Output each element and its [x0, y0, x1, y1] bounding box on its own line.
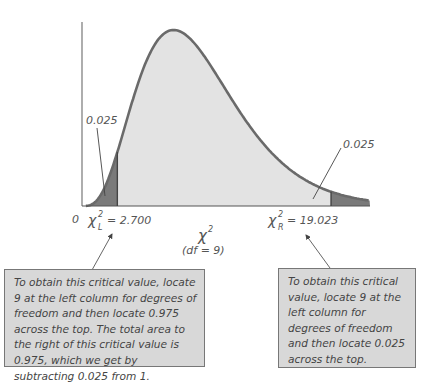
left-critical-sup: 2 — [98, 210, 103, 219]
left-tail-area — [86, 152, 117, 206]
x-axis-sup: 2 — [208, 225, 213, 234]
left-callout-text: To obtain this critical value, locate 9 … — [14, 276, 196, 382]
left-area-label: 0.025 — [86, 114, 118, 127]
origin-label: 0 — [72, 213, 79, 226]
left-callout-box: To obtain this critical value, locate 9 … — [4, 269, 205, 367]
right-area-label: 0.025 — [343, 138, 375, 151]
right-callout-text: To obtain this critical value, locate 9 … — [288, 275, 405, 365]
right-callout-box: To obtain this critical value, locate 9 … — [278, 268, 416, 368]
left-area-leader — [97, 128, 105, 196]
left-callout-arrow — [92, 234, 112, 270]
right-critical-symbol: χ — [267, 212, 277, 228]
right-critical-value: = 19.023 — [287, 214, 338, 227]
right-critical-sup: 2 — [278, 210, 283, 219]
left-critical-sub: L — [98, 223, 102, 232]
df-label: (df = 9) — [182, 244, 225, 257]
right-callout-arrow — [306, 235, 330, 268]
x-axis-symbol: χ — [197, 227, 208, 245]
left-critical-value: = 2.700 — [107, 214, 151, 227]
right-critical-sub: R — [278, 223, 284, 232]
left-critical-symbol: χ — [87, 212, 97, 228]
